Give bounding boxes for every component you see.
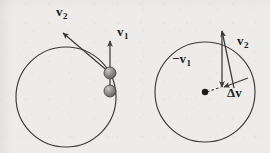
- bead-position-2: [104, 85, 116, 97]
- label-negative-v1-subscript: 1: [186, 58, 191, 68]
- left-panel-group: [16, 33, 116, 147]
- label-v2-right-subscript: 2: [244, 40, 249, 50]
- label-negative-velocity-v1: −v1: [172, 52, 191, 68]
- label-delta-v: Δv: [227, 86, 242, 99]
- label-v1-left-subscript: 1: [124, 31, 129, 41]
- left-circular-path: [16, 47, 116, 147]
- label-v2-left-subscript: 2: [63, 11, 68, 21]
- label-velocity-v2-left: v2: [56, 5, 68, 21]
- label-negative-v1-symbol: −v: [172, 51, 186, 66]
- physics-figure-circular-motion: v2 v1 −v1 v2 Δv: [0, 0, 270, 153]
- vector-v2-shaft: [222, 31, 234, 88]
- center-dot: [202, 89, 208, 95]
- label-delta-v-symbol: Δv: [227, 85, 242, 100]
- radius-dashed-line: [207, 87, 221, 92]
- figure-vector-graphics: [0, 0, 270, 153]
- label-v1-left-symbol: v: [117, 24, 124, 39]
- label-v2-left-symbol: v: [56, 4, 63, 19]
- bead-position-1: [104, 67, 116, 79]
- label-v2-right-symbol: v: [237, 33, 244, 48]
- vector-v2-shaft: [63, 33, 110, 73]
- label-velocity-v1-left: v1: [117, 25, 129, 41]
- label-velocity-v2-right: v2: [237, 34, 249, 50]
